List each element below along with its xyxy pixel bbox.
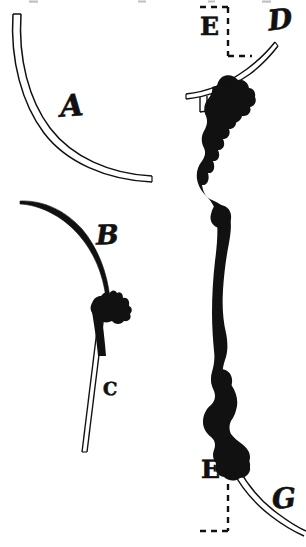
label-g: G (271, 484, 296, 513)
label-b: B (96, 222, 120, 250)
main-stave (197, 75, 256, 480)
illustration-plate: A B c D E E G (0, 0, 306, 547)
label-c: c (103, 374, 118, 399)
label-a: A (59, 91, 84, 123)
label-e-lower: E (201, 457, 220, 482)
scan-artifacts (29, 1, 271, 3)
label-d: D (266, 5, 294, 36)
label-e-upper: E (200, 14, 219, 39)
nock-b (91, 290, 132, 356)
plate-artwork (0, 0, 306, 547)
